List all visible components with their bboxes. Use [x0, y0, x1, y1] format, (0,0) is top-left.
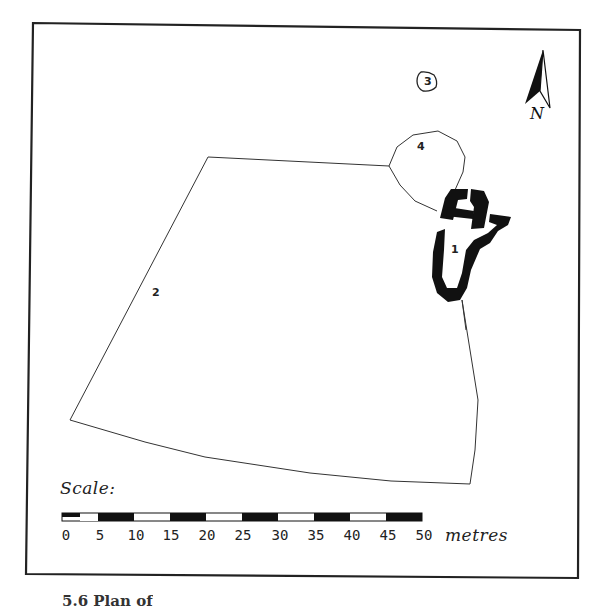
- scale-tick: 20: [199, 527, 216, 543]
- site-label-3: 3: [424, 75, 432, 88]
- site-label-1: 1: [451, 243, 459, 256]
- structure-1-walls: [432, 189, 511, 302]
- scale-tick: 35: [308, 527, 325, 543]
- scale-tick: 50: [416, 527, 433, 543]
- scale-tick: 30: [272, 527, 289, 543]
- north-label: N: [530, 104, 544, 123]
- enclosure-2-east-line: [462, 300, 466, 330]
- scale-tick: 10: [128, 527, 145, 543]
- scale-unit: metres: [445, 525, 508, 545]
- scale-tick: 25: [235, 527, 252, 543]
- scale-tick: 0: [62, 527, 70, 543]
- north-arrow-icon: [525, 50, 550, 108]
- enclosure-2-outline: [70, 157, 478, 484]
- scale-tick: 5: [96, 527, 104, 543]
- site-label-2: 2: [152, 286, 160, 299]
- figure-caption: 5.6 Plan of: [62, 594, 153, 606]
- scale-tick: 45: [380, 527, 397, 543]
- scale-tick: 40: [344, 527, 361, 543]
- scale-tick: 15: [163, 527, 180, 543]
- scale-title: Scale:: [60, 478, 116, 498]
- site-plan-figure: [0, 0, 611, 606]
- site-label-4: 4: [417, 140, 425, 153]
- scale-bar: [62, 513, 422, 521]
